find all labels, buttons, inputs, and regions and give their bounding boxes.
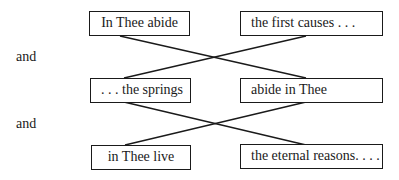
- and-label-2: and: [16, 116, 36, 132]
- box-in-thee-live: in Thee live: [91, 145, 191, 170]
- and-label-1: and: [16, 49, 36, 65]
- box-abide-in-thee: abide in Thee: [240, 78, 383, 103]
- box-the-eternal-reasons: the eternal reasons. . . .: [240, 144, 383, 169]
- box-the-springs: . . . the springs: [90, 78, 191, 103]
- box-in-thee-abide: In Thee abide: [89, 11, 190, 36]
- box-the-first-causes: the first causes . . .: [240, 11, 383, 36]
